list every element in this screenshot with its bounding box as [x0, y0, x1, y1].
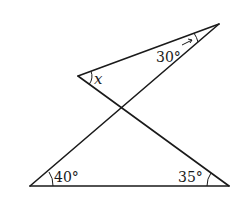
segment-x-to-right	[78, 76, 229, 186]
angle-label-30: 30°	[156, 49, 181, 65]
angle-arc-35	[207, 173, 211, 186]
angle-label-x: x	[94, 70, 103, 88]
segment-left-to-top	[30, 24, 219, 186]
angle-arc-30	[194, 33, 198, 42]
angle-arc-40	[49, 172, 53, 186]
segment-x-to-top	[78, 24, 219, 76]
geometry-diagram: 30° x 40° 35°	[0, 0, 248, 220]
angle-arc-x	[89, 71, 92, 84]
angle-label-35: 35°	[178, 169, 203, 185]
angle-label-40: 40°	[54, 169, 79, 185]
